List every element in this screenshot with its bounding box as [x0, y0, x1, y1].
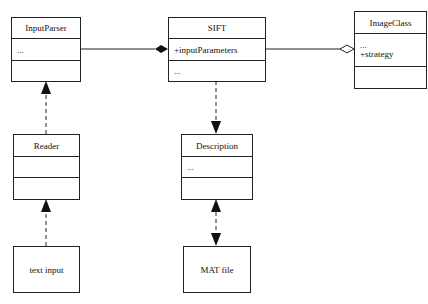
class-attributes — [14, 157, 79, 178]
class-operations — [355, 67, 426, 88]
node-text-input[interactable]: text input — [13, 246, 80, 293]
node-label: MAT file — [200, 265, 233, 275]
composition-diamond-icon — [155, 45, 168, 53]
class-operations — [12, 61, 80, 81]
class-name: Reader — [14, 135, 79, 157]
class-name: ImageClass — [355, 12, 426, 34]
class-description[interactable]: Description ... — [181, 134, 253, 200]
arrowhead-icon — [211, 199, 221, 212]
class-attributes: +inputParameters — [169, 39, 265, 61]
class-name: SIFT — [169, 18, 265, 39]
node-mat-file[interactable]: MAT file — [183, 246, 251, 293]
class-operations — [182, 178, 252, 199]
class-image-class[interactable]: ImageClass ... +strategy — [354, 11, 427, 89]
arrowhead-icon — [211, 233, 221, 246]
class-operations: ... — [169, 61, 265, 81]
arrowhead-icon — [211, 121, 221, 134]
class-operations — [14, 178, 79, 199]
class-name: InputParser — [12, 18, 80, 39]
attribute: +strategy — [360, 50, 394, 59]
class-input-parser[interactable]: InputParser ... — [11, 17, 81, 82]
class-attributes: ... — [182, 157, 252, 178]
class-sift[interactable]: SIFT +inputParameters ... — [168, 17, 266, 82]
class-attributes: ... — [12, 39, 80, 61]
arrowhead-icon — [41, 81, 51, 94]
class-reader[interactable]: Reader — [13, 134, 80, 200]
node-label: text input — [29, 265, 63, 275]
aggregation-diamond-icon — [340, 45, 354, 53]
arrowhead-icon — [41, 199, 51, 212]
class-attributes: ... +strategy — [355, 34, 426, 67]
class-name: Description — [182, 135, 252, 157]
